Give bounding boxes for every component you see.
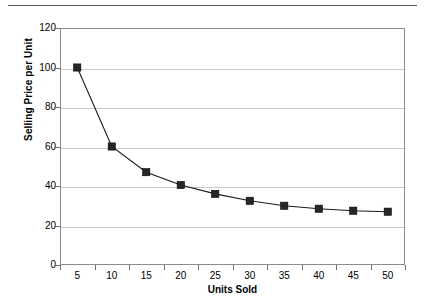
line-chart-figure: Selling Price per Unit 020406080100120 5…: [0, 12, 425, 302]
chart-page: Selling Price per Unit 020406080100120 5…: [0, 0, 425, 302]
series-line: [77, 68, 388, 212]
x-tick-label: 50: [368, 270, 408, 282]
y-tick-label: 0: [10, 260, 56, 270]
data-point-marker: [281, 202, 288, 209]
x-axis-title: Units Sold: [60, 284, 405, 295]
data-point-marker: [143, 169, 150, 176]
series-markers: [74, 64, 392, 215]
y-tick-label: 20: [10, 221, 56, 231]
data-point-marker: [177, 181, 184, 188]
y-tick-label: 60: [10, 142, 56, 152]
top-divider-rule: [8, 5, 417, 6]
y-tick-label: 120: [10, 23, 56, 33]
data-series-layer: [60, 28, 405, 265]
y-tick-label: 100: [10, 63, 56, 73]
data-point-marker: [74, 64, 81, 71]
y-tick-label: 80: [10, 102, 56, 112]
data-point-marker: [212, 190, 219, 197]
y-axis-title: Selling Price per Unit: [23, 20, 34, 160]
data-point-marker: [108, 143, 115, 150]
data-point-marker: [246, 197, 253, 204]
data-point-marker: [384, 208, 391, 215]
y-tick-label: 40: [10, 181, 56, 191]
data-point-marker: [350, 207, 357, 214]
data-point-marker: [315, 205, 322, 212]
